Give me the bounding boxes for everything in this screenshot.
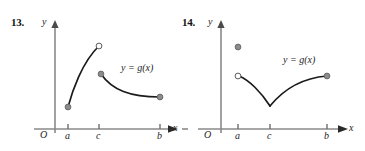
figure-13-closed-point-right-of-c	[98, 71, 104, 77]
figure-13-closed-point-at-b	[157, 94, 163, 100]
figure-13-y-axis	[51, 20, 58, 133]
figure-13-left-branch	[68, 46, 99, 107]
figure-14-right-branch	[270, 76, 327, 106]
figure-14: 14. y x O a c b y = g(x)	[182, 0, 365, 151]
figure-14-plot	[182, 0, 365, 151]
figure-14-open-point-at-a	[235, 73, 241, 79]
figure-13-open-point-at-c	[96, 43, 102, 49]
figure-14-left-branch	[239, 76, 270, 106]
figure-14-isolated-point-at-a	[235, 44, 241, 50]
figure-13-closed-point-at-a	[65, 104, 71, 110]
figure-13: 13. y x O a c b y = g(x)	[0, 0, 182, 151]
figure-13-right-branch	[101, 74, 160, 97]
figure-14-y-axis	[217, 20, 224, 133]
figure-14-closed-point-at-b	[324, 73, 330, 79]
figure-page: 13. y x O a c b y = g(x)	[0, 0, 365, 151]
figure-13-plot	[0, 0, 182, 151]
